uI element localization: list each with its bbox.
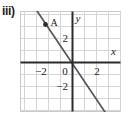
y-axis-label: y <box>75 12 81 24</box>
y-tick-label-neg2: −2 <box>56 80 68 92</box>
x-axis-label: x <box>110 45 116 57</box>
x-tick-label-pos2: 2 <box>94 65 100 77</box>
plot-svg: A x y −2 2 2 −2 0 <box>20 11 121 112</box>
point-a-marker <box>43 22 48 27</box>
y-tick-label-pos2: 2 <box>63 32 69 44</box>
x-tick-label-neg2: −2 <box>35 65 47 77</box>
origin-label: 0 <box>62 65 68 77</box>
part-label: iii) <box>2 5 15 17</box>
point-a-label: A <box>51 17 59 28</box>
figure-container: iii) <box>0 0 132 125</box>
coordinate-plot: A x y −2 2 2 −2 0 <box>20 11 121 112</box>
